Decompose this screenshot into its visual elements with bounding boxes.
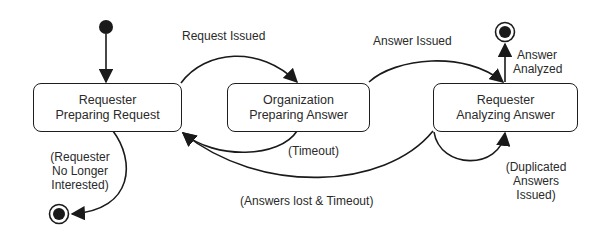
- label-duplicated-answers: (Duplicated Answers Issued): [495, 160, 577, 202]
- state-label-line2: Preparing Request: [55, 108, 159, 123]
- initial-state-icon: [99, 20, 113, 34]
- label-answer-analyzed-2: Analyzed: [513, 62, 562, 76]
- state-requester-preparing-request: Requester Preparing Request: [33, 83, 182, 132]
- label-line: Issued): [495, 188, 577, 202]
- label-line: Interested): [40, 178, 120, 192]
- label-line: (Duplicated: [495, 160, 577, 174]
- label-line: No Longer: [40, 164, 120, 178]
- state-label-line1: Organization: [263, 93, 334, 108]
- label-answers-lost-timeout: (Answers lost & Timeout): [240, 194, 373, 208]
- transition-answer-issued: [369, 61, 503, 82]
- state-label-line1: Requester: [79, 93, 137, 108]
- final-state-dot-icon: [499, 26, 511, 38]
- state-requester-analyzing-answer: Requester Analyzing Answer: [433, 83, 578, 132]
- label-no-longer-interested: (Requester No Longer Interested): [40, 150, 120, 192]
- label-request-issued: Request Issued: [182, 29, 265, 43]
- transition-timeout: [183, 131, 297, 152]
- final-state-bottom-dot-icon: [53, 208, 65, 220]
- state-organization-preparing-answer: Organization Preparing Answer: [227, 83, 370, 132]
- transition-request-issued: [181, 56, 297, 83]
- state-label-line2: Analyzing Answer: [456, 108, 555, 123]
- label-timeout: (Timeout): [288, 144, 339, 158]
- transition-duplicated-answers: [434, 132, 505, 161]
- label-line: (Requester: [40, 150, 120, 164]
- label-answer-analyzed-1: Answer: [517, 48, 557, 62]
- label-answer-issued: Answer Issued: [373, 34, 452, 48]
- state-label-line2: Preparing Answer: [249, 108, 348, 123]
- label-line: Answers: [495, 174, 577, 188]
- state-label-line1: Requester: [477, 93, 535, 108]
